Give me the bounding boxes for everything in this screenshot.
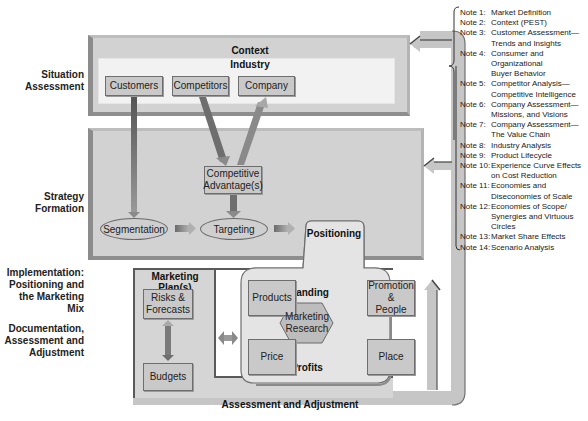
note-number: Note 5: (460, 79, 491, 99)
note-item: Note 1:Market Definition (460, 8, 588, 18)
feedback-arrow-to-situation (410, 36, 452, 52)
note-number: Note 14: (460, 243, 491, 253)
note-text: Company Assessment— The Value Chain (491, 120, 588, 140)
note-item: Note 4:Consumer and Organizational Buyer… (460, 49, 588, 80)
note-text: Market Share Effects (491, 232, 588, 242)
arrow-advantage-to-targeting (226, 195, 241, 218)
note-item: Note 8:Industry Analysis (460, 141, 588, 151)
note-text: Industry Analysis (491, 141, 588, 151)
note-item: Note 12:Economies of Scope/ Synergies an… (460, 202, 588, 233)
note-number: Note 1: (460, 8, 491, 18)
arrow-segmentation-to-targeting (175, 222, 196, 235)
note-item: Note 13:Market Share Effects (460, 232, 588, 242)
note-item: Note 5:Competitor Analysis— Competitive … (460, 79, 588, 99)
note-item: Note 10:Experience Curve Effects on Cost… (460, 161, 588, 181)
arrow-risks-budgets (162, 320, 174, 361)
note-item: Note 2:Context (PEST) (460, 18, 588, 28)
note-item: Note 3:Customer Assessment— Trends and I… (460, 28, 588, 48)
note-number: Note 9: (460, 151, 491, 161)
note-item: Note 14:Scenario Analysis (460, 243, 588, 253)
note-item: Note 7:Company Assessment— The Value Cha… (460, 120, 588, 140)
note-text: Competitor Analysis— Competitive Intelli… (491, 79, 588, 99)
notes-list: Note 1:Market Definition Note 2:Context … (460, 8, 588, 253)
note-item: Note 11:Economies and Diseconomies of Sc… (460, 181, 588, 201)
note-number: Note 13: (460, 232, 491, 242)
note-number: Note 3: (460, 28, 491, 48)
note-text: Economies of Scope/ Synergies and Virtuo… (491, 202, 588, 233)
note-number: Note 10: (460, 161, 491, 181)
note-text: Customer Assessment— Trends and Insights (491, 28, 588, 48)
note-text: Product Lifecycle (491, 151, 588, 161)
note-text: Market Definition (491, 8, 588, 18)
note-number: Note 2: (460, 18, 491, 28)
note-number: Note 6: (460, 100, 491, 120)
note-text: Context (PEST) (491, 18, 588, 28)
arrow-plan-positioning (218, 331, 238, 345)
note-text: Scenario Analysis (491, 243, 588, 253)
note-item: Note 6:Company Assessment— Missions, and… (460, 100, 588, 120)
note-item: Note 9:Product Lifecycle (460, 151, 588, 161)
arrow-targeting-to-positioning (274, 222, 295, 235)
note-text: Experience Curve Effects on Cost Reducti… (491, 161, 588, 181)
note-text: Company Assessment— Missions, and Vision… (491, 100, 588, 120)
note-text: Consumer and Organizational Buyer Behavi… (491, 49, 588, 80)
arrow-customers-to-segmentation (128, 97, 140, 218)
note-number: Note 8: (460, 141, 491, 151)
arrow-competitors-to-advantage (199, 97, 230, 166)
note-text: Economies and Diseconomies of Scale (491, 181, 588, 201)
note-number: Note 4: (460, 49, 491, 80)
feedback-arrow-to-strategy (424, 158, 452, 174)
note-number: Note 12: (460, 202, 491, 233)
note-number: Note 7: (460, 120, 491, 140)
feedback-arrow-up-positioning (424, 280, 440, 390)
arrow-advantage-to-company (237, 97, 268, 165)
note-number: Note 11: (460, 181, 491, 201)
